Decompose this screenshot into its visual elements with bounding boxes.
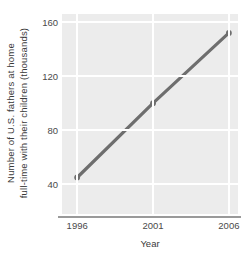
x-axis-tick-label: 2001	[142, 220, 163, 231]
gridline-vertical	[228, 14, 230, 214]
y-axis-title-line1: Number of U.S. fathers at home	[5, 43, 16, 183]
y-axis-title-line2: full-time with their children (thousands…	[17, 27, 30, 197]
gridline-vertical	[152, 14, 154, 214]
y-axis-title-text: Number of U.S. fathers at home full-time…	[5, 27, 30, 197]
plot-area	[62, 14, 238, 214]
y-axis-tick-label: 120	[32, 71, 58, 82]
y-axis-tick-labels: 4080120160	[30, 0, 58, 267]
gridline-horizontal	[62, 21, 238, 23]
gridline-horizontal	[62, 75, 238, 77]
x-axis-tick-label: 2006	[218, 220, 239, 231]
gridline-horizontal	[62, 129, 238, 131]
x-axis-tick-label: 1996	[67, 220, 88, 231]
x-axis-tick-labels: 199620012006	[62, 220, 238, 236]
y-axis-tick-label: 80	[32, 125, 58, 136]
y-axis-tick-label: 40	[32, 179, 58, 190]
x-axis-title: Year	[62, 238, 238, 249]
y-axis-title: Number of U.S. fathers at home full-time…	[0, 0, 34, 225]
gridline-vertical	[76, 14, 78, 214]
line-chart-figure: Number of U.S. fathers at home full-time…	[0, 0, 246, 267]
x-axis-line	[58, 216, 241, 218]
y-axis-tick-label: 160	[32, 17, 58, 28]
gridline-horizontal	[62, 183, 238, 185]
